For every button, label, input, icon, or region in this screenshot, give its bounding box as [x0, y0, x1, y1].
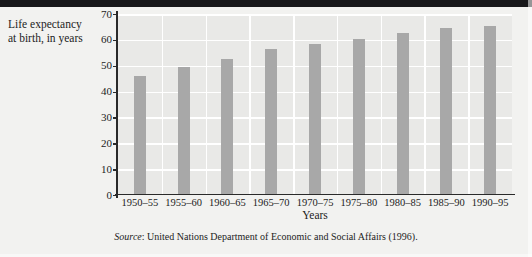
y-axis-tick [113, 117, 117, 118]
y-axis-tick-labels: 706050403020100 [86, 14, 112, 195]
y-tick-label: 20 [86, 138, 112, 149]
bar-series [118, 14, 512, 195]
bar [440, 28, 452, 195]
x-axis-line [115, 194, 515, 195]
plot-area: 1950–551955–601960–651965–701970–751975–… [118, 14, 512, 195]
y-axis-tick [113, 92, 117, 93]
bar [265, 49, 277, 195]
source-label: Source [114, 231, 141, 242]
x-tick-label: 1990–95 [460, 197, 520, 208]
source-note: Source: United Nations Department of Eco… [0, 231, 532, 242]
bar [397, 33, 409, 195]
source-body: : United Nations Department of Economic … [142, 231, 418, 242]
bar [178, 67, 190, 195]
y-axis-tick [113, 14, 117, 15]
bar [353, 39, 365, 195]
bar [484, 26, 496, 195]
y-tick-label: 50 [86, 60, 112, 71]
bar [134, 76, 146, 195]
x-axis-title: Years [118, 209, 512, 221]
y-axis-tick [113, 169, 117, 170]
y-tick-label: 60 [86, 34, 112, 45]
y-axis-tick [113, 40, 117, 41]
y-tick-label: 10 [86, 164, 112, 175]
y-tick-label: 40 [86, 86, 112, 97]
y-axis-tick [113, 195, 117, 196]
y-axis-tick [113, 66, 117, 67]
bar [309, 44, 321, 195]
frame-right-edge [528, 0, 532, 257]
chart-figure: Life expectancy at birth, in years 70605… [0, 0, 532, 257]
y-tick-label: 30 [86, 112, 112, 123]
y-tick-label: 70 [86, 9, 112, 20]
y-axis-tick [113, 143, 117, 144]
y-tick-label: 0 [86, 190, 112, 201]
bar [221, 59, 233, 195]
top-rule-divider [0, 0, 532, 7]
